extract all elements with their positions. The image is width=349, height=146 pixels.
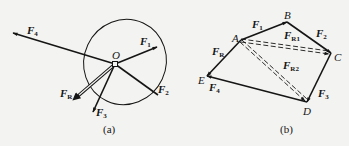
figure-b bbox=[207, 22, 331, 102]
label-fr1: FR1 bbox=[284, 30, 300, 43]
label-f2: F2 bbox=[316, 28, 327, 41]
force-f1-vector bbox=[115, 47, 157, 64]
label-f1: F1 bbox=[252, 19, 263, 32]
point-b: B bbox=[284, 10, 291, 21]
label-fr: FR bbox=[212, 46, 224, 59]
force-diagrams bbox=[0, 0, 349, 146]
force-f3-vector bbox=[93, 64, 115, 112]
point-e: E bbox=[198, 75, 205, 86]
point-a: A bbox=[232, 33, 239, 44]
force-f2-vector bbox=[115, 64, 158, 95]
label-f4: F4 bbox=[209, 82, 220, 95]
label-origin-o: O bbox=[112, 50, 120, 61]
label-f4: F4 bbox=[27, 25, 38, 38]
label-f3: F3 bbox=[96, 107, 107, 120]
label-f2: F2 bbox=[158, 84, 169, 97]
figure-a bbox=[13, 6, 180, 119]
caption-b: (b) bbox=[280, 124, 293, 135]
point-d: D bbox=[303, 106, 311, 117]
force-f1-vector bbox=[241, 22, 287, 40]
origin-point bbox=[113, 62, 118, 67]
label-fr: FR bbox=[60, 88, 72, 101]
label-fr2: FR2 bbox=[283, 60, 299, 73]
label-f3: F3 bbox=[318, 88, 329, 101]
caption-a: (a) bbox=[103, 124, 115, 135]
resultant-fr1-dash-b bbox=[241, 42, 329, 54]
label-f1: F1 bbox=[140, 36, 151, 49]
rigid-body-outline bbox=[70, 6, 181, 119]
point-c: C bbox=[334, 52, 341, 63]
